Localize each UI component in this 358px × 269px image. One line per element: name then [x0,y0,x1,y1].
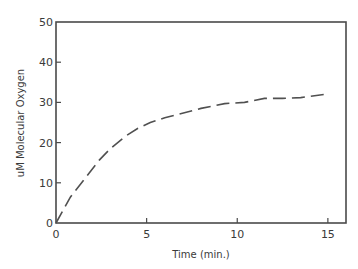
x-axis-label: Time (min.) [171,249,230,260]
series-line [56,94,324,223]
y-tick-label: 0 [46,217,53,230]
series-group [56,94,324,223]
chart: 05101501020304050 Time (min.) uM Molecul… [0,0,358,269]
y-tick-label: 20 [39,137,53,150]
axes [56,22,346,223]
y-axis-label: uM Molecular Oxygen [15,69,26,177]
y-tick-label: 50 [39,16,53,29]
y-tick-label: 10 [39,177,53,190]
x-tick-label: 15 [321,228,335,241]
x-tick-label: 10 [230,228,244,241]
y-tick-label: 40 [39,56,53,69]
y-tick-label: 30 [39,96,53,109]
plot-frame [56,22,346,223]
x-tick-label: 0 [53,228,60,241]
x-tick-label: 5 [143,228,150,241]
ticks: 05101501020304050 [39,16,335,241]
